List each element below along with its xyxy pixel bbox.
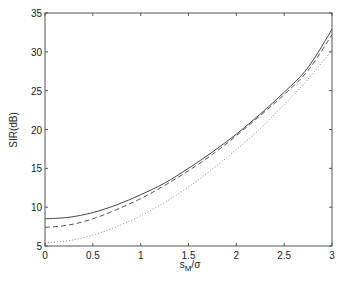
y-tick-label: 35: [31, 8, 43, 19]
x-tick-label: 3: [329, 250, 335, 261]
y-tick-label: 5: [36, 241, 42, 252]
chart-figure: 00.511.522.53 5101520253035 sM/σ SIR(dB): [0, 0, 348, 281]
x-tick-label: 2: [234, 250, 240, 261]
figure-background: [0, 0, 348, 281]
y-tick-label: 25: [31, 86, 43, 97]
x-tick-label: 2.5: [277, 250, 291, 261]
y-tick-label: 10: [31, 202, 43, 213]
x-tick-label: 0: [42, 250, 48, 261]
x-tick-label: 1: [138, 250, 144, 261]
x-tick-label: 0.5: [86, 250, 100, 261]
y-tick-label: 20: [31, 125, 43, 136]
y-tick-label: 30: [31, 47, 43, 58]
y-tick-label: 15: [31, 163, 43, 174]
y-axis-label: SIR(dB): [8, 112, 19, 148]
